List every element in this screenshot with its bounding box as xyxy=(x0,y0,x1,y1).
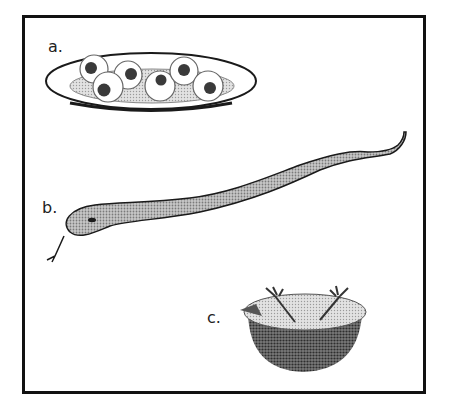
bowl-with-chicken-feet xyxy=(240,286,366,372)
plate-of-eyeballs xyxy=(46,53,256,111)
snake xyxy=(47,132,406,262)
bowl-contents xyxy=(244,294,366,330)
snake-tongue xyxy=(47,236,64,262)
eyeball xyxy=(193,71,223,101)
illustration xyxy=(0,0,450,413)
eyeball xyxy=(93,72,123,102)
snake-body xyxy=(66,132,406,235)
snake-eye xyxy=(88,218,96,222)
